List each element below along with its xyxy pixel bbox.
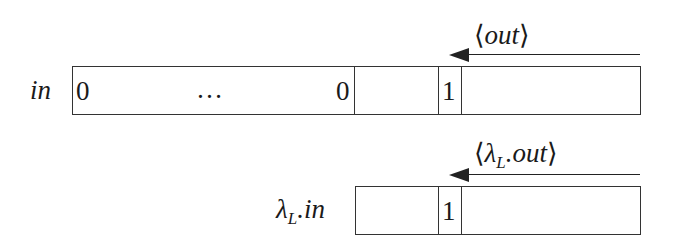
- left-arrow-icon: [449, 168, 469, 182]
- row-label-in: in: [30, 77, 51, 104]
- angle-open: ⟨: [474, 20, 485, 50]
- cell-one: 1: [442, 78, 456, 105]
- left-arrow-icon: [449, 48, 469, 62]
- lambda: λ: [276, 194, 288, 224]
- top-arrow-line: [460, 54, 640, 55]
- bottom-arrow-line: [460, 174, 640, 175]
- bottom-arrow-label: ⟨λL.out⟩: [474, 140, 558, 171]
- lambda: λ: [485, 138, 497, 168]
- top-arrow-label: ⟨out⟩: [474, 22, 530, 49]
- cell-last-zero: 0: [336, 78, 350, 105]
- angle-open: ⟨: [474, 138, 485, 168]
- subscript-L: L: [288, 209, 297, 228]
- cell-one: 1: [442, 198, 456, 225]
- divider: [354, 66, 355, 115]
- label-rest: .in: [297, 194, 325, 224]
- angle-close: ⟩: [547, 138, 558, 168]
- divider: [438, 186, 439, 235]
- cell-ellipsis: …: [196, 76, 223, 103]
- angle-close: ⟩: [519, 20, 530, 50]
- cell-first-zero: 0: [76, 78, 90, 105]
- subscript-L: L: [496, 153, 505, 172]
- arrow-label-text: out: [485, 20, 520, 50]
- top-register-box: [72, 66, 641, 115]
- bottom-register-box: [355, 186, 641, 235]
- divider: [461, 186, 462, 235]
- divider: [461, 66, 462, 115]
- row-label-lambda-in: λL.in: [276, 196, 325, 227]
- arrow-label-rest: .out: [506, 138, 547, 168]
- divider: [438, 66, 439, 115]
